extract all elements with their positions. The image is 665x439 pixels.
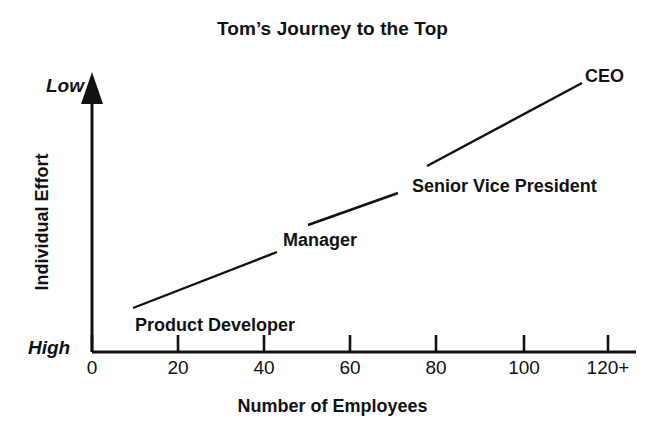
x-axis-title: Number of Employees [0, 396, 665, 417]
up-arrow-icon [81, 72, 103, 104]
x-tick-label-100: 100 [508, 357, 540, 379]
y-axis-top-label: Low [46, 75, 84, 97]
data-label-product-developer: Product Developer [135, 315, 295, 336]
data-label-ceo: CEO [585, 66, 624, 87]
series-segment-product-developer-to-manager [133, 252, 277, 308]
chart-plot-area [0, 0, 665, 439]
series-segment-manager-to-svp [308, 193, 398, 225]
y-axis-bottom-label: High [28, 337, 70, 359]
series-segment-svp-to-ceo [427, 83, 582, 166]
y-axis-title: Individual Effort [32, 154, 53, 291]
x-tick-label-80: 80 [425, 357, 446, 379]
x-tick-label-20: 20 [167, 357, 188, 379]
data-label-manager: Manager [283, 230, 357, 251]
x-tick-label-120: 120+ [587, 357, 630, 379]
x-tick-label-0: 0 [87, 357, 98, 379]
data-label-senior-vice-president: Senior Vice President [412, 176, 597, 197]
chart-canvas: Tom’s Journey to the Top 0 20 40 60 80 1… [0, 0, 665, 439]
x-tick-label-60: 60 [339, 357, 360, 379]
x-tick-label-40: 40 [253, 357, 274, 379]
x-axis-ticks [92, 335, 608, 352]
